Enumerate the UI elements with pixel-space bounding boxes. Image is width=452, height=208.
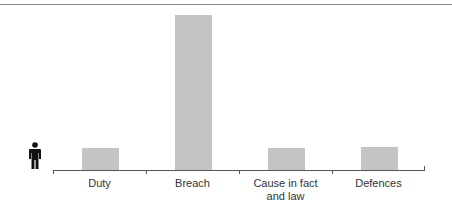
axis-tick: [332, 170, 333, 174]
category-label: Duty: [53, 177, 146, 190]
axis-tick: [424, 166, 425, 170]
bar-duty: [82, 148, 119, 170]
axis-tick: [53, 170, 54, 174]
top-divider: [0, 4, 452, 5]
bar-cause-in-fact-and-law: [268, 148, 305, 170]
axis-tick: [146, 170, 147, 174]
bar-breach: [175, 15, 212, 170]
axis-tick: [239, 170, 240, 174]
bar-defences: [361, 147, 398, 170]
person-icon: [28, 142, 42, 170]
category-label: Breach: [146, 177, 239, 190]
category-label: Defences: [332, 177, 425, 190]
category-label: Cause in factand law: [239, 177, 332, 203]
